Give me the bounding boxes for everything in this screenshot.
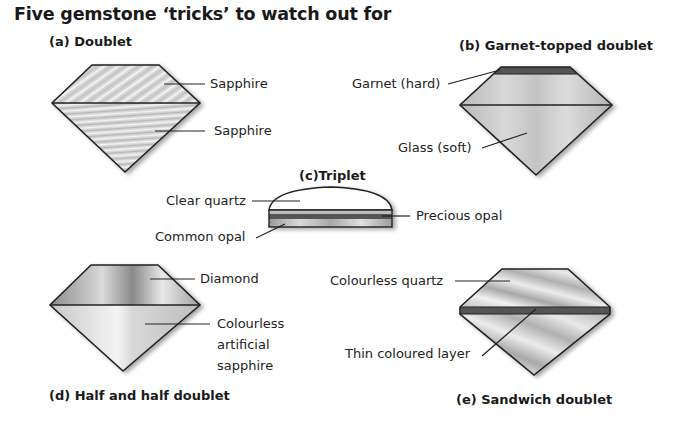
half-and-half-doublet-gem [50, 265, 200, 371]
label-precious-opal: Precious opal [416, 208, 502, 223]
caption-sandwich-doublet: (e) Sandwich doublet [456, 392, 612, 407]
label-common-opal: Common opal [155, 229, 245, 244]
garnet-topped-doublet-gem [460, 67, 612, 175]
caption-garnet-topped-doublet: (b) Garnet-topped doublet [459, 38, 653, 53]
label-colourless: Colourless [217, 316, 284, 331]
label-artificial: artificial [217, 337, 270, 352]
doublet-gem [52, 65, 200, 172]
label-glass-soft: Glass (soft) [398, 140, 472, 155]
label-sapphire: sapphire [217, 358, 273, 373]
label-thin-coloured-layer: Thin coloured layer [345, 346, 470, 361]
gemstone-diagrams [0, 0, 674, 431]
label-clear-quartz: Clear quartz [166, 193, 246, 208]
sandwich-doublet-gem [460, 269, 610, 375]
triplet-gem [269, 187, 392, 227]
label-colourless-quartz: Colourless quartz [330, 273, 443, 288]
caption-half-and-half-doublet: (d) Half and half doublet [49, 388, 230, 403]
label-diamond: Diamond [200, 271, 259, 286]
label-sapphire-top: Sapphire [210, 76, 268, 91]
label-garnet-hard: Garnet (hard) [352, 76, 440, 91]
label-sapphire-bottom: Sapphire [214, 123, 272, 138]
caption-doublet: (a) Doublet [49, 34, 132, 49]
caption-triplet: (c)Triplet [299, 168, 366, 183]
